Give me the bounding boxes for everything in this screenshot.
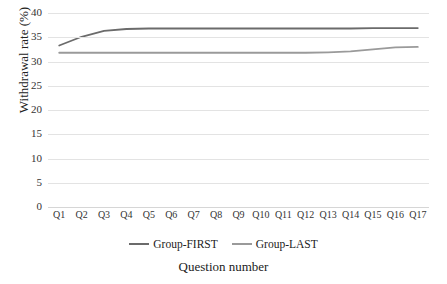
y-axis-tick-label: 20 [18, 103, 42, 115]
y-axis-tick-label: 40 [18, 6, 42, 18]
y-axis-tick-label: 15 [18, 127, 42, 139]
y-axis-tick-label: 25 [18, 79, 42, 91]
y-axis-tick-label: 5 [18, 176, 42, 188]
x-axis-tick-label: Q14 [342, 209, 359, 220]
gridline [48, 37, 429, 38]
x-axis-tick-label: Q3 [98, 209, 110, 220]
x-axis-title: Question number [0, 259, 447, 275]
x-axis-tick-label: Q15 [364, 209, 381, 220]
y-axis-tick-label: 35 [18, 30, 42, 42]
gridline [48, 183, 429, 184]
gridline [48, 134, 429, 135]
x-axis-tick-label: Q17 [409, 209, 426, 220]
legend-item[interactable]: Group-LAST [232, 238, 318, 250]
legend-color-swatch [129, 243, 149, 245]
legend-item[interactable]: Group-FIRST [129, 238, 218, 250]
legend-label: Group-LAST [256, 238, 318, 250]
x-axis-tick-label: Q12 [297, 209, 314, 220]
gridline [48, 86, 429, 87]
x-axis-tick-labels: Q1Q2Q3Q4Q5Q6Q7Q8Q9Q10Q11Q12Q13Q14Q15Q16Q… [48, 209, 429, 225]
x-axis-tick-label: Q16 [387, 209, 404, 220]
x-axis-tick-label: Q13 [320, 209, 337, 220]
x-axis-tick-label: Q1 [53, 209, 65, 220]
legend-label: Group-FIRST [153, 238, 218, 250]
line-chart: Withdrawal rate (%) 0510152025303540 Q1Q… [0, 0, 447, 284]
chart-legend: Group-FIRSTGroup-LAST [0, 238, 447, 250]
y-axis-tick-labels: 0510152025303540 [18, 13, 42, 207]
y-axis-tick-label: 0 [18, 200, 42, 212]
gridline [48, 207, 429, 208]
series-line [59, 47, 418, 53]
x-axis-tick-label: Q9 [232, 209, 244, 220]
x-axis-tick-label: Q2 [75, 209, 87, 220]
gridline [48, 13, 429, 14]
x-axis-tick-label: Q11 [275, 209, 292, 220]
gridline [48, 62, 429, 63]
gridline [48, 159, 429, 160]
x-axis-tick-label: Q10 [252, 209, 269, 220]
y-axis-tick-label: 10 [18, 152, 42, 164]
gridline [48, 110, 429, 111]
x-axis-tick-label: Q7 [188, 209, 200, 220]
x-axis-tick-label: Q5 [143, 209, 155, 220]
x-axis-tick-label: Q4 [120, 209, 132, 220]
plot-area [48, 13, 429, 207]
x-axis-tick-label: Q8 [210, 209, 222, 220]
x-axis-tick-label: Q6 [165, 209, 177, 220]
legend-color-swatch [232, 243, 252, 245]
y-axis-tick-label: 30 [18, 55, 42, 67]
